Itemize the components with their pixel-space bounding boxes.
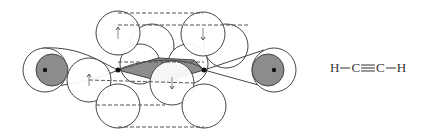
left-hydrogen-orbital: [23, 48, 68, 92]
structural-formula: HCCH: [330, 60, 406, 77]
left-hydrogen-nucleus-dot: [43, 68, 47, 72]
formula-hydrogen-left: H: [330, 60, 339, 76]
lower-left-lobe: [96, 84, 140, 128]
right-carbon-nucleus-dot: [202, 68, 207, 73]
formula-hydrogen-right: H: [397, 60, 406, 76]
right-hydrogen-shaded-lobe: [252, 54, 284, 86]
left-hydrogen-shaded-lobe: [36, 54, 68, 86]
formula-carbon-left: C: [351, 60, 360, 76]
right-hydrogen-orbital: [252, 48, 296, 92]
single-bond-right: [385, 61, 397, 77]
triple-bond: [360, 61, 376, 77]
lower-right-lobe: [182, 84, 226, 128]
single-bond-left: [339, 61, 351, 77]
left-carbon-nucleus-dot: [116, 68, 121, 73]
formula-carbon-right: C: [376, 60, 385, 76]
right-hydrogen-nucleus-dot: [272, 68, 276, 72]
